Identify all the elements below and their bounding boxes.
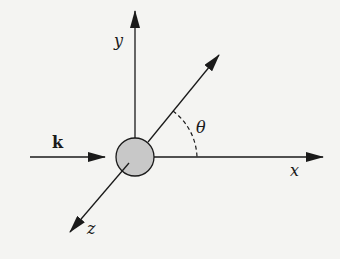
z-axis-label: z <box>86 219 96 238</box>
scatterer-sphere <box>116 138 154 176</box>
angle-arc <box>173 111 197 157</box>
diagram-svg: y x z k θ <box>0 0 340 259</box>
y-axis-label: y <box>113 31 124 50</box>
wave-vector-label: k <box>52 133 64 152</box>
x-axis-label: x <box>290 161 299 180</box>
angle-theta-label: θ <box>196 118 206 137</box>
scattering-diagram: y x z k θ <box>0 0 340 259</box>
z-axis <box>70 163 129 232</box>
scattered-direction-arrow <box>148 55 219 142</box>
